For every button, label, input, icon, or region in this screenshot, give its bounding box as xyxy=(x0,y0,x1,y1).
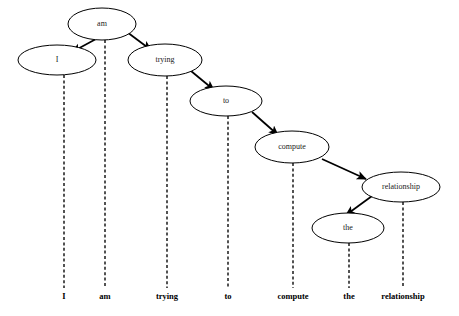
node-label-am: am xyxy=(97,19,108,28)
node-am[interactable]: am xyxy=(68,8,136,40)
node-label-I: I xyxy=(56,55,59,64)
node-label-trying: trying xyxy=(155,55,174,64)
sentence-word-labels-group: Iamtryingtocomputetherelationship xyxy=(62,291,425,301)
dependency-arrow-to-compute xyxy=(252,112,278,135)
node-the[interactable]: the xyxy=(312,213,384,243)
word-trying: trying xyxy=(156,291,179,301)
dependency-parse-diagram: amItryingtocomputerelationshipthe Iamtry… xyxy=(0,0,459,316)
word-I: I xyxy=(62,291,66,301)
node-label-compute: compute xyxy=(278,142,306,151)
node-label-relationship: relationship xyxy=(382,182,420,191)
node-relationship[interactable]: relationship xyxy=(362,172,440,202)
node-label-the: the xyxy=(343,223,353,232)
node-label-to: to xyxy=(223,96,229,105)
word-relationship: relationship xyxy=(381,291,425,301)
drop-lines-group xyxy=(64,40,403,288)
dependency-tree-canvas: amItryingtocomputerelationshipthe Iamtry… xyxy=(0,0,459,316)
word-to: to xyxy=(224,291,231,301)
word-am: am xyxy=(99,291,110,301)
word-nodes-group: amItryingtocomputerelationshipthe xyxy=(18,8,440,243)
dependency-arrow-compute-relationship xyxy=(322,159,366,179)
word-the: the xyxy=(343,291,355,301)
node-to[interactable]: to xyxy=(190,86,262,116)
node-trying[interactable]: trying xyxy=(128,44,202,76)
node-compute[interactable]: compute xyxy=(255,131,329,163)
node-I[interactable]: I xyxy=(18,45,96,75)
dependency-arrow-relationship-the xyxy=(346,196,372,215)
dependency-edges-group xyxy=(72,32,372,215)
word-compute: compute xyxy=(277,291,308,301)
